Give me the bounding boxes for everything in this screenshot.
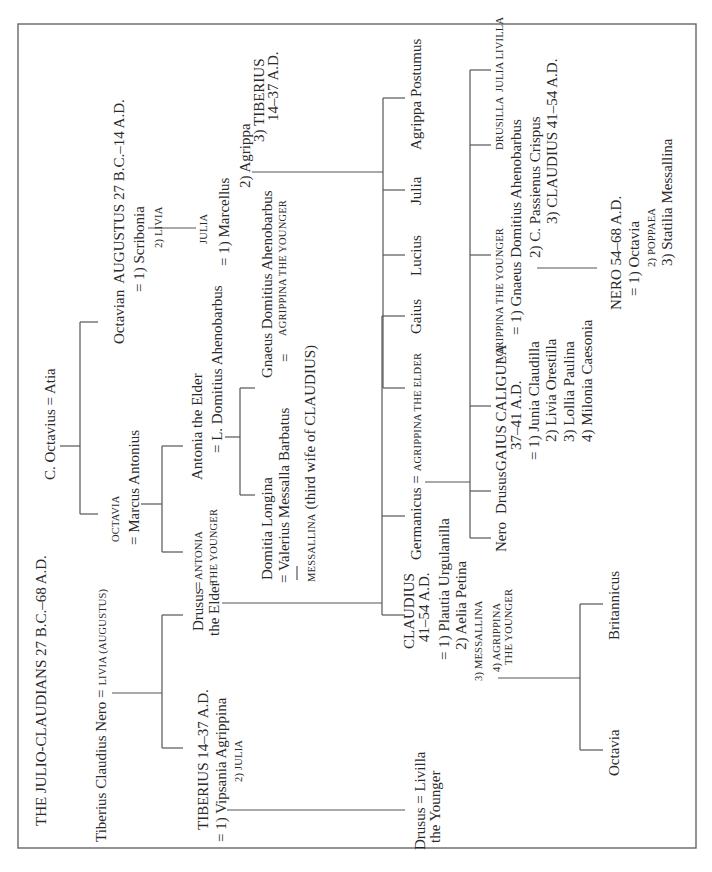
person-britannicus: Britannicus: [606, 571, 622, 640]
nero-marriage-1: = 1) Octavia: [626, 221, 643, 296]
diagram-title: THE JULIO-CLAUDIANS 27 B.C.–68 A.D.: [33, 555, 49, 826]
claudius-marriage-4-suffix: THE YOUNGER: [503, 589, 514, 665]
person-drusilla: DRUSILLA: [494, 96, 505, 150]
agrippina-marriage-1: = 1) Gnaeus Domitius Ahenobarbus: [508, 119, 525, 335]
agrippina-marriage-3: 3) CLAUDIUS 41–54 A.D.: [544, 59, 561, 224]
augustus-marriage-2: 2) LIVIA: [153, 206, 165, 248]
person-domitia-longina: Domitia Longina: [259, 477, 275, 580]
person-germanicus: Germanicus =AGRIPPINA THE ELDER: [408, 353, 424, 560]
person-messallina: MESSALLINA(third wife of CLAUDIUS): [302, 345, 319, 582]
generation-5: Nero Drusus GAIUS CALIGULA 37–41 A.D. = …: [493, 17, 596, 552]
person-lucius: Lucius: [408, 235, 424, 276]
person-octavia: OCTAVIA: [110, 495, 121, 542]
nero-marriage-3: 3) Statilia Messallina: [659, 138, 676, 266]
title-text: THE JULIO-CLAUDIANS 27 B.C.–68 A.D.: [33, 555, 49, 826]
person-antonia-younger: ANTONIA: [193, 531, 204, 580]
person-julia: JULIA: [198, 214, 209, 244]
caligula-marriage-1: = 1) Junia Claudilla: [526, 341, 543, 460]
julia-marriage-3-dates: 14–37 A.D.: [265, 51, 281, 121]
person-drusus-son: Drusus: [493, 471, 509, 514]
person-marcus-antonius: = Marcus Antonius: [126, 430, 142, 545]
agrippina-marriage-2: 2) C. Passienus Crispus: [527, 116, 544, 258]
person-drusus-younger-suffix: the Younger: [427, 770, 443, 843]
person-claudius: CLAUDIUS: [401, 573, 417, 649]
person-agrippina-younger-1: AGRIPPINA THE YOUNGER: [277, 200, 288, 336]
family-tree-diagram: THE JULIO-CLAUDIANS 27 B.C.–68 A.D. Tibe…: [0, 0, 712, 872]
julia-marriage-1: = 1) Marcellus: [216, 177, 233, 266]
person-gaius: Gaius: [408, 299, 424, 334]
claudius-marriage-3: 3) MESSALLINA: [473, 600, 485, 681]
caligula-marriage-4: 4) Milonia Caesonia: [579, 319, 596, 442]
generation-3: TIBERIUS 14–37 A.D. = 1) Vipsania Agripp…: [189, 190, 319, 842]
person-julia-daughter: Julia: [408, 176, 424, 205]
claudius-marriage-4: 4) AGRIPPINA: [491, 603, 503, 672]
person-julia-livilla: JULIA LIVILLA: [494, 17, 505, 92]
person-drusus-elder: Drusus: [190, 588, 206, 631]
person-c-octavius-atia: C. Octavius = Atia: [42, 368, 58, 480]
person-gnaeus-domitius: Gnaeus Domitius Ahenobarbus: [259, 190, 275, 378]
drusus-elder-equals: =: [190, 582, 206, 590]
tiberius-marriage-2: 2) JULIA: [233, 740, 245, 782]
person-agrippa-postumus: Agrippa Postumus: [408, 39, 424, 150]
person-caligula-dates: 37–41 A.D.: [508, 380, 524, 450]
nero-marriage-2: 2) POPPAEA: [646, 208, 658, 267]
person-nero-emperor: NERO 54–68 A.D.: [608, 196, 624, 310]
person-agrippina-younger: AGRIPPINA THE YOUNGER: [494, 228, 505, 364]
caligula-marriage-3: 3) Lollia Paulina: [561, 341, 578, 442]
person-nero-son: Nero: [493, 522, 509, 552]
tiberius-marriage-1: = 1) Vipsania Agrippina: [213, 697, 230, 842]
person-drusus-elder-suffix: the Elder: [206, 581, 222, 636]
augustus-marriage-1: = 1) Scribonia: [131, 206, 148, 292]
gnaeus-equals: =: [277, 354, 293, 362]
generation-1: Tiberius Claudius Nero =LIVIA (AUGUSTUS)…: [42, 368, 109, 842]
person-octavia-daughter: Octavia: [606, 729, 622, 776]
caligula-marriage-2: 2) Livia Orestilla: [543, 338, 560, 442]
person-tiberius: TIBERIUS 14–37 A.D.: [195, 689, 211, 830]
claudius-marriage-2: 2) Aelia Petina: [453, 561, 470, 650]
person-antonia-elder: Antonia the Elder: [189, 373, 205, 480]
generation-6: NERO 54–68 A.D. = 1) Octavia 2) POPPAEA …: [608, 138, 676, 310]
person-valerius-messalla: = Valerius Messalla Barbatus: [276, 408, 292, 583]
person-claudius-dates: 41–54 A.D.: [416, 572, 432, 642]
person-antonia-younger-suffix: THE YOUNGER: [208, 509, 219, 585]
claudius-marriage-1: = 1) Plautia Urgulanilla: [436, 518, 453, 660]
person-drusus-younger: Drusus = Livilla: [412, 751, 428, 850]
person-tiberius-claudius-nero: Tiberius Claudius Nero =LIVIA (AUGUSTUS): [93, 588, 109, 842]
person-augustus: OctavianAUGUSTUS 27 B.C.–14 A.D.: [111, 99, 127, 344]
person-l-domitius: = L. Domitius Ahenobarbus: [209, 285, 225, 453]
